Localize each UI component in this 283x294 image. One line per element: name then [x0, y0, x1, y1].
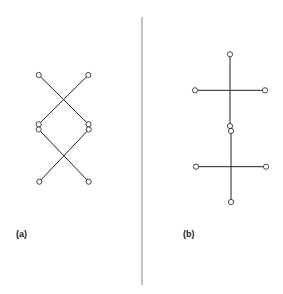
- panel-b-label: (b): [183, 229, 195, 239]
- graph-node: [36, 72, 41, 77]
- panel-a-label: (a): [16, 229, 27, 239]
- graph-node: [86, 179, 91, 184]
- graph-node: [227, 52, 232, 57]
- graph-node: [36, 122, 41, 127]
- graph-node: [193, 164, 198, 169]
- diagram-canvas: [0, 0, 283, 294]
- graph-node: [37, 179, 42, 184]
- panel-a-graph: [36, 72, 91, 184]
- panel-b-graph: [192, 52, 268, 205]
- graph-node: [86, 72, 91, 77]
- graph-node: [227, 123, 232, 128]
- graph-node: [86, 122, 91, 127]
- graph-node: [228, 128, 233, 133]
- graph-node: [192, 88, 197, 93]
- graph-node: [228, 199, 233, 204]
- graph-node: [36, 127, 41, 132]
- graph-node: [86, 127, 91, 132]
- graph-node: [262, 88, 267, 93]
- graph-node: [263, 164, 268, 169]
